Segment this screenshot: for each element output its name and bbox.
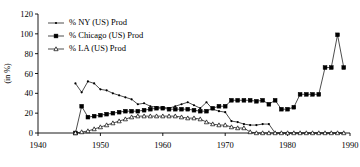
data-point [93, 82, 95, 84]
data-point [123, 109, 127, 113]
legend: % NY (US) Prod% Chicago (US) Prod% LA (U… [48, 17, 144, 53]
data-point [99, 113, 103, 117]
data-point [292, 105, 296, 109]
data-point [205, 101, 207, 103]
data-point [131, 98, 133, 100]
data-point [329, 66, 333, 70]
y-tick-label: 20 [25, 108, 34, 118]
data-point [230, 98, 234, 102]
data-point [174, 105, 176, 107]
data-point [143, 102, 145, 104]
data-point [336, 33, 340, 37]
data-point [199, 107, 201, 109]
data-point [248, 130, 252, 134]
legend-marker [55, 22, 57, 24]
data-point [262, 123, 264, 125]
x-tick-label: 1970 [217, 140, 234, 150]
y-axis-title: (in %) [3, 63, 12, 84]
data-point [86, 115, 90, 119]
data-point [204, 120, 208, 124]
x-tick-label: 1980 [279, 140, 296, 150]
x-tick-label: 1950 [92, 140, 109, 150]
data-point [161, 106, 165, 110]
data-point [267, 102, 271, 106]
data-point [155, 106, 159, 110]
data-point [137, 103, 139, 105]
data-point [218, 110, 220, 112]
y-tick-label: 0 [29, 128, 33, 138]
data-point [273, 98, 277, 102]
data-point [105, 112, 109, 116]
data-point [173, 107, 177, 111]
data-point [286, 107, 290, 111]
data-point [112, 92, 114, 94]
data-point [180, 103, 182, 105]
legend-item-0: % NY (US) Prod [48, 17, 128, 27]
data-point [87, 80, 89, 82]
data-point [298, 92, 302, 96]
data-point [74, 82, 76, 84]
data-point [242, 98, 246, 102]
legend-marker [54, 34, 58, 38]
data-point [224, 111, 226, 113]
data-point [81, 91, 83, 93]
axes: 020406080100120194019501960197019801990(… [3, 9, 359, 150]
legend-label: % NY (US) Prod [69, 17, 128, 27]
data-point [130, 109, 134, 113]
y-tick-label: 40 [25, 88, 34, 98]
legend-label: % LA (US) Prod [69, 43, 127, 53]
data-point [304, 92, 308, 96]
data-point [180, 107, 184, 111]
y-tick-label: 60 [25, 69, 34, 79]
y-tick-label: 120 [20, 9, 33, 19]
line-chart: 020406080100120194019501960197019801990(… [0, 0, 360, 167]
data-point [230, 120, 232, 122]
data-point [192, 108, 196, 112]
data-point [323, 66, 327, 70]
data-point [255, 124, 257, 126]
data-point [261, 98, 265, 102]
data-point [243, 123, 245, 125]
data-point [342, 66, 346, 70]
data-point [80, 104, 84, 108]
series-line [75, 116, 343, 133]
data-point [118, 94, 120, 96]
data-point [223, 104, 227, 108]
x-tick-label: 1960 [154, 140, 171, 150]
series-line [75, 81, 343, 133]
data-point [217, 104, 221, 108]
y-tick-label: 80 [25, 49, 34, 59]
data-point [92, 114, 96, 118]
legend-item-2: % LA (US) Prod [48, 43, 127, 53]
data-point [248, 98, 252, 102]
data-point [186, 107, 190, 111]
data-point [106, 89, 108, 91]
data-point [111, 111, 115, 115]
data-point [124, 96, 126, 98]
x-tick-label: 1990 [342, 140, 359, 150]
data-point [205, 109, 209, 113]
x-tick-label: 1940 [30, 140, 47, 150]
data-point [236, 98, 240, 102]
data-point [311, 92, 315, 96]
data-point [99, 88, 101, 90]
data-point [268, 123, 270, 125]
data-point [142, 108, 146, 112]
y-tick-label: 100 [20, 29, 33, 39]
legend-item-1: % Chicago (US) Prod [48, 30, 144, 40]
series-0 [74, 80, 345, 134]
chart-container: 020406080100120194019501960197019801990(… [0, 0, 360, 167]
data-point [193, 104, 195, 106]
legend-label: % Chicago (US) Prod [69, 30, 144, 40]
data-point [117, 110, 121, 114]
data-point [167, 107, 171, 111]
data-point [136, 109, 140, 113]
data-point [249, 124, 251, 126]
series-2 [73, 114, 346, 135]
data-point [187, 101, 189, 103]
data-point [237, 121, 239, 123]
data-point [148, 107, 152, 111]
data-point [211, 106, 215, 110]
data-point [198, 109, 202, 113]
data-point [149, 105, 151, 107]
